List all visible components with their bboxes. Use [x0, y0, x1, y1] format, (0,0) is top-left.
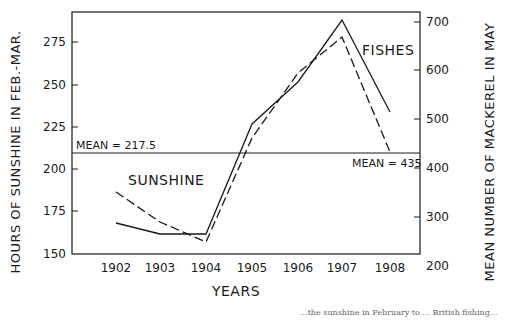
x-tick-1908: 1908	[375, 261, 406, 275]
sunshine-series	[116, 37, 390, 242]
right-axis-title: MEAN NUMBER OF MACKEREL IN MAY	[482, 23, 497, 282]
fishes-label: FISHES	[362, 42, 414, 58]
mean-right-label: MEAN = 435	[352, 157, 421, 170]
x-tick-1904: 1904	[191, 261, 222, 275]
left-axis: 275 250 225 200 175 150	[43, 35, 78, 261]
x-tick-1905: 1905	[237, 261, 268, 275]
chart: 275 250 225 200 175 150 700 600 500 400 …	[0, 0, 506, 322]
left-tick-250: 250	[43, 78, 66, 92]
x-tick-1903: 1903	[145, 261, 176, 275]
mean-left-label: MEAN = 217.5	[76, 139, 156, 152]
x-axis: 1902 1903 1904 1905 1906 1907 1908	[101, 261, 406, 275]
right-tick-400: 400	[426, 161, 449, 175]
right-axis: 700 600 500 400 300 200	[414, 15, 449, 273]
left-tick-150: 150	[43, 247, 66, 261]
x-tick-1907: 1907	[327, 261, 358, 275]
x-tick-1906: 1906	[283, 261, 314, 275]
right-tick-600: 600	[426, 63, 449, 77]
right-tick-700: 700	[426, 15, 449, 29]
left-tick-175: 175	[43, 204, 66, 218]
x-axis-title: YEARS	[211, 283, 260, 299]
left-tick-200: 200	[43, 162, 66, 176]
figure-caption: ...the sunshine in February to ... Briti…	[300, 308, 497, 317]
right-tick-200: 200	[426, 259, 449, 273]
left-tick-275: 275	[43, 35, 66, 49]
left-axis-title: HOURS OF SUNSHINE IN FEB.-MAR.	[8, 30, 23, 273]
sunshine-label: SUNSHINE	[128, 172, 204, 188]
x-tick-1902: 1902	[101, 261, 132, 275]
left-tick-225: 225	[43, 120, 66, 134]
right-tick-500: 500	[426, 112, 449, 126]
right-tick-300: 300	[426, 210, 449, 224]
